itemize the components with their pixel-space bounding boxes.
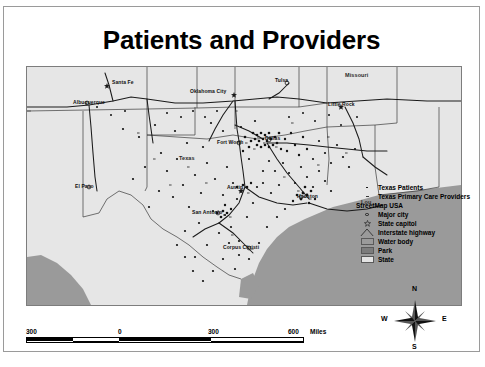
map-scale-bar: 300 0 300 600 Miles [26,327,326,343]
compass-west-label: W [381,315,388,322]
star-icon [356,219,378,228]
legend-label: State [378,255,394,264]
legend-label: Major city [378,210,408,219]
scale-bar-labels: 300 0 300 600 Miles [26,327,326,336]
legend-label: Interstate highway [378,228,435,237]
scale-bar-graphic [26,337,304,343]
legend-item-state: State [356,255,482,264]
legend-item-major-city: Major city [356,210,482,219]
map-label-oklahoma-city: Oklahoma City [190,89,226,94]
legend-group-title: StreetMap USA [356,201,482,210]
map-label-austin: Austin [227,185,243,190]
slide-canvas: Patients and Providers [3,6,480,352]
map-label-missouri: Missouri [345,73,368,79]
legend-item-texas-primary-care-providers: Texas Primary Care Providers [356,192,482,201]
scale-tick-label: 0 [118,327,122,336]
compass-south-label: S [412,343,417,350]
legend-label: Texas Patients [378,183,423,192]
small-dot-icon [356,183,378,192]
page-title: Patients and Providers [4,27,479,53]
legend-item-water-body: Water body [356,237,482,246]
compass-east-label: E [442,315,447,322]
map-legend: Texas Patients Texas Primary Care Provid… [356,183,482,264]
compass-rose: N S W E [379,285,451,353]
map-label-fort-worth: Fort Worth [217,140,243,145]
legend-label: Texas Primary Care Providers [378,192,470,201]
legend-label: Water body [378,237,413,246]
water-swatch-icon [356,237,378,246]
legend-label: State capitol [378,219,417,228]
legend-item-interstate-highway: Interstate highway [356,228,482,237]
compass-north-label: N [412,285,417,292]
map-label-little-rock: Little Rock [328,102,355,107]
map-label-dallas: Dallas [265,136,280,141]
map-label-corpus-christi: Corpus Christi [223,245,259,250]
scale-tick-label: 300 [208,327,219,336]
scale-tick-label: 600 [288,327,299,336]
map-label-el-paso: El Paso [75,184,94,189]
legend-label: Park [378,246,392,255]
compass-needle-icon [393,299,437,343]
map-label-texas: Texas [179,156,195,162]
small-dash-icon [356,192,378,201]
state-swatch-icon [356,255,378,264]
map-label-san-antonio: San Antonio [192,210,222,215]
scale-units-label: Miles [310,327,326,336]
map-label-santa-fe: Santa Fe [112,80,134,85]
map-label-houston: Houston [297,194,318,199]
interstate-shield-icon [356,228,378,237]
scale-tick-label: 300 [26,327,37,336]
legend-item-texas-patients: Texas Patients [356,183,482,192]
legend-item-state-capitol: State capitol [356,219,482,228]
open-circle-icon [356,210,378,219]
park-swatch-icon [356,246,378,255]
legend-item-park: Park [356,246,482,255]
map-label-albuquerque: Albuquerque [73,100,105,105]
map-label-tulsa: Tulsa [275,78,288,83]
